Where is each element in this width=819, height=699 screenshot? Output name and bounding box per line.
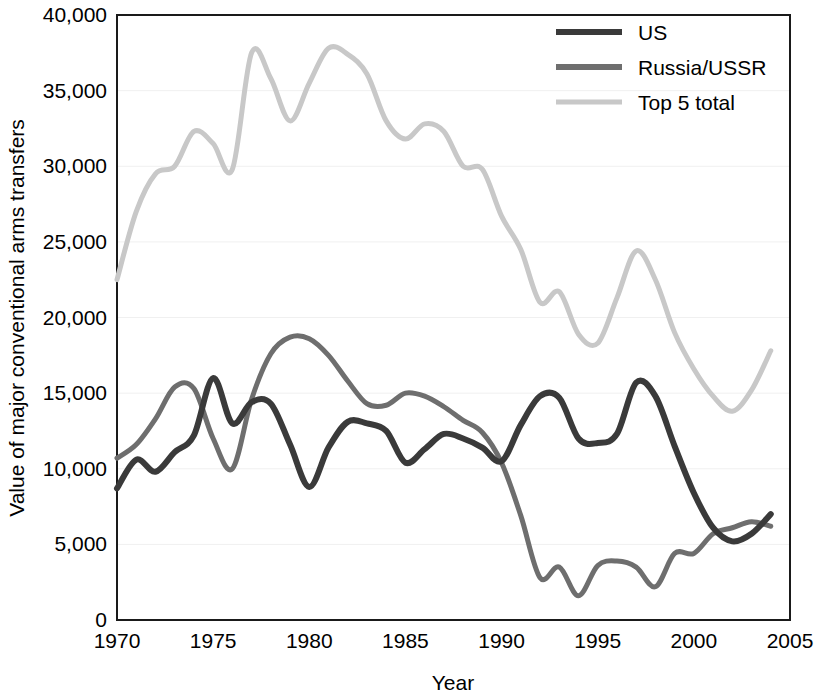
y-tick-label: 30,000 [43,154,107,177]
y-tick-label: 35,000 [43,79,107,102]
x-axis-title: Year [432,671,474,694]
chart-legend: USRussia/USSRTop 5 total [556,21,766,114]
y-tick-label: 20,000 [43,306,107,329]
line-chart: 05,00010,00015,00020,00025,00030,00035,0… [0,0,819,699]
y-tick-label: 25,000 [43,230,107,253]
x-tick-label: 1975 [190,629,237,652]
x-tick-label: 2000 [670,629,717,652]
legend-label-us: US [638,21,667,44]
y-tick-label: 0 [95,608,107,631]
series-line-us [117,378,771,542]
x-axis-tick-labels: 19701975198019851990199520002005 [94,629,814,652]
x-tick-label: 1980 [286,629,333,652]
chart-figure: 05,00010,00015,00020,00025,00030,00035,0… [0,0,819,699]
legend-label-top-5-total: Top 5 total [638,91,735,114]
x-tick-label: 1970 [94,629,141,652]
series-line-russia-ussr [117,336,771,596]
x-tick-label: 2005 [767,629,814,652]
legend-label-russia-ussr: Russia/USSR [638,56,766,79]
y-tick-label: 15,000 [43,381,107,404]
series-lines [117,47,771,596]
x-tick-label: 1990 [478,629,525,652]
y-tick-label: 40,000 [43,3,107,26]
y-tick-label: 5,000 [54,532,107,555]
x-tick-label: 1985 [382,629,429,652]
y-tick-label: 10,000 [43,457,107,480]
y-axis-tick-labels: 05,00010,00015,00020,00025,00030,00035,0… [43,3,107,631]
x-tick-label: 1995 [574,629,621,652]
y-axis-title: Value of major conventional arms transfe… [5,119,28,517]
